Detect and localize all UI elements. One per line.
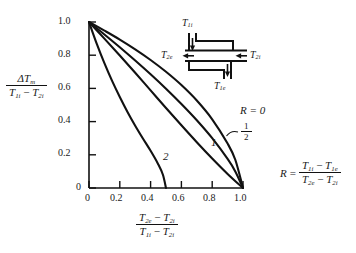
arrowhead-t1e <box>225 71 230 77</box>
curve-label-r-one: 1 <box>211 136 217 148</box>
schematic-label-t1e: T1e <box>214 80 225 91</box>
x-tick-label-0.6: 0.6 <box>172 192 185 203</box>
schematic-label-t1i: T1i <box>182 17 192 28</box>
y-tick-label-0.6: 0.6 <box>58 81 71 92</box>
x-axis-title: T2e − T2i T1i − T2i <box>136 211 178 238</box>
tube-bottom-bend <box>189 61 224 79</box>
y-axis-title-numerator: ΔTm <box>6 72 47 86</box>
r-definition-equation: R = T1i − T1e T2e − T2i <box>280 159 341 186</box>
curve-r-2 <box>89 22 166 188</box>
x-tick-label-0: 0 <box>85 192 90 203</box>
r-definition-lhs: R <box>280 167 287 179</box>
curve-label-r-half: 1 2 <box>241 121 252 142</box>
y-tick-label-0.8: 0.8 <box>58 48 71 59</box>
x-tick-label-0.8: 0.8 <box>203 192 216 203</box>
curve-label-r-zero: R = 0 <box>240 104 265 116</box>
schematic-label-t2e: T2e <box>161 49 172 60</box>
tube-top-bend <box>196 33 233 51</box>
schematic-label-t2i: T2i <box>250 49 260 60</box>
x-tick-label-0.4: 0.4 <box>141 192 154 203</box>
r-definition-numerator: T1i − T1e <box>299 159 341 173</box>
y-tick-label-0: 0 <box>76 181 81 192</box>
arrowhead-t2i <box>236 53 242 58</box>
x-axis-title-denominator: T1i − T2i <box>136 225 178 238</box>
y-axis-title: ΔTm T1i − T2i <box>6 72 47 99</box>
figure-canvas: 1.0 0.8 0.6 0.4 0.2 0 0 0.2 0.4 0.6 0.8 … <box>0 0 356 253</box>
y-tick-label-0.2: 0.2 <box>58 147 71 158</box>
arrowhead-t2e <box>183 53 189 58</box>
curve-label-r-half-denominator: 2 <box>241 132 252 142</box>
curve-r-1 <box>89 22 243 188</box>
y-axis-title-denominator: T1i − T2i <box>6 86 47 99</box>
y-tick-label-0.4: 0.4 <box>58 114 71 125</box>
curve-label-r-half-numerator: 1 <box>241 121 252 132</box>
chart-plot-area <box>0 0 356 253</box>
leader-line-r-half <box>227 132 239 137</box>
r-definition-equals: = <box>290 167 296 179</box>
y-axis-ticks <box>89 22 96 188</box>
curve-label-r-two: 2 <box>163 150 169 162</box>
x-tick-label-1.0: 1.0 <box>234 192 247 203</box>
x-axis-title-numerator: T2e − T2i <box>136 211 178 225</box>
y-tick-label-1.0: 1.0 <box>58 15 71 26</box>
heat-exchanger-schematic <box>183 33 248 79</box>
x-tick-label-0.2: 0.2 <box>110 192 123 203</box>
r-definition-denominator: T2e − T2i <box>299 173 341 186</box>
data-curves <box>89 22 243 188</box>
